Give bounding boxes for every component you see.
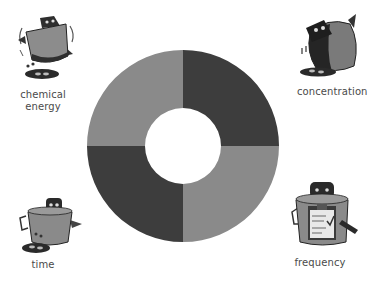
donut-segment-bottom-left <box>87 146 183 242</box>
label-concentration: concentration <box>297 86 367 98</box>
donut-segment-top-right <box>183 50 279 146</box>
tilted-pot-robot-icon <box>14 10 78 84</box>
label-chemical-line1: chemical <box>13 89 73 101</box>
diagram-stage: chemical energy concentration <box>0 0 379 283</box>
hunched-dark-robot-icon <box>296 12 362 82</box>
clipboard-robot-icon <box>286 180 362 250</box>
label-chemical-line2: energy <box>13 101 73 113</box>
pot-robot-icon <box>14 196 84 254</box>
label-time: time <box>18 259 68 271</box>
donut-segment-bottom-right <box>183 146 279 242</box>
label-frequency: frequency <box>290 257 350 269</box>
donut-segment-top-left <box>87 50 183 146</box>
